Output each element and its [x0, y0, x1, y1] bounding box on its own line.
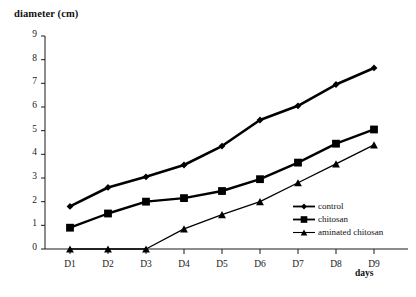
triangle-marker-icon: [292, 226, 316, 239]
data-point: [180, 194, 188, 202]
data-point: [218, 187, 226, 195]
plot-area: [0, 0, 416, 297]
diamond-marker-icon: [292, 200, 316, 213]
data-point: [294, 179, 302, 186]
legend-item-chitosan: chitosan: [292, 213, 414, 226]
legend-item-aminated-chitosan: aminated chitosan: [292, 226, 414, 239]
legend: controlchitosanaminated chitosan: [292, 200, 414, 239]
data-point: [218, 211, 226, 218]
legend-label: aminated chitosan: [318, 226, 383, 239]
legend-label: chitosan: [318, 213, 348, 226]
legend-label: control: [318, 200, 344, 213]
data-point: [143, 173, 150, 180]
data-point: [256, 198, 264, 205]
square-marker-icon: [292, 213, 316, 226]
legend-item-control: control: [292, 200, 414, 213]
data-point: [332, 160, 340, 167]
data-point: [370, 141, 378, 148]
data-point: [294, 159, 302, 167]
data-point: [370, 126, 378, 134]
data-point: [180, 225, 188, 232]
data-point: [66, 224, 74, 232]
data-point: [104, 210, 112, 218]
data-point: [142, 198, 150, 206]
line-chart: diameter (cm) days 0123456789 D1D2D3D4D5…: [0, 0, 416, 297]
data-point: [332, 140, 340, 148]
data-point: [256, 175, 264, 183]
